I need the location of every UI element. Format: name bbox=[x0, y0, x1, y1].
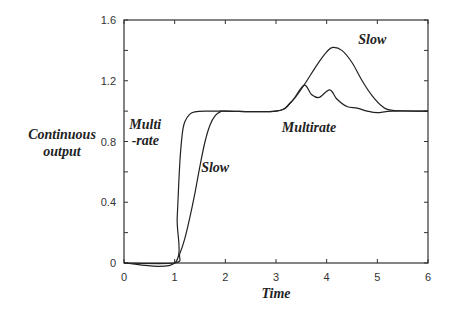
annotation-label: -rate bbox=[132, 133, 159, 148]
y-tick-label: 0 bbox=[110, 257, 116, 269]
y-tick-label: 0.4 bbox=[101, 196, 116, 208]
plot-border bbox=[124, 20, 428, 263]
y-tick-label: 1.6 bbox=[101, 14, 116, 26]
x-tick-label: 0 bbox=[121, 271, 127, 283]
y-tick-label: 0.8 bbox=[101, 136, 116, 148]
x-tick-label: 4 bbox=[324, 271, 330, 283]
x-tick-label: 2 bbox=[222, 271, 228, 283]
x-tick-label: 3 bbox=[273, 271, 279, 283]
series-slow bbox=[124, 47, 428, 263]
x-axis-label: Time bbox=[261, 286, 290, 301]
x-tick-label: 5 bbox=[374, 271, 380, 283]
line-chart: 012345600.40.81.21.6 Multi-rateSlowSlowM… bbox=[0, 0, 454, 320]
data-series bbox=[124, 47, 428, 266]
y-axis-label-line2: output bbox=[43, 144, 81, 159]
annotation-label: Slow bbox=[358, 32, 387, 47]
plot-frame bbox=[124, 20, 428, 263]
x-tick-label: 6 bbox=[425, 271, 431, 283]
series-multirate bbox=[124, 85, 428, 266]
annotations: Multi-rateSlowSlowMultirate bbox=[128, 32, 387, 175]
y-tick-label: 1.2 bbox=[101, 75, 116, 87]
annotation-label: Multirate bbox=[281, 120, 336, 135]
annotation-label: Slow bbox=[201, 160, 230, 175]
x-tick-label: 1 bbox=[172, 271, 178, 283]
y-axis-label-line1: Continuous bbox=[28, 127, 96, 142]
annotation-label: Multi bbox=[128, 117, 161, 132]
axis-ticks: 012345600.40.81.21.6 bbox=[101, 14, 431, 283]
